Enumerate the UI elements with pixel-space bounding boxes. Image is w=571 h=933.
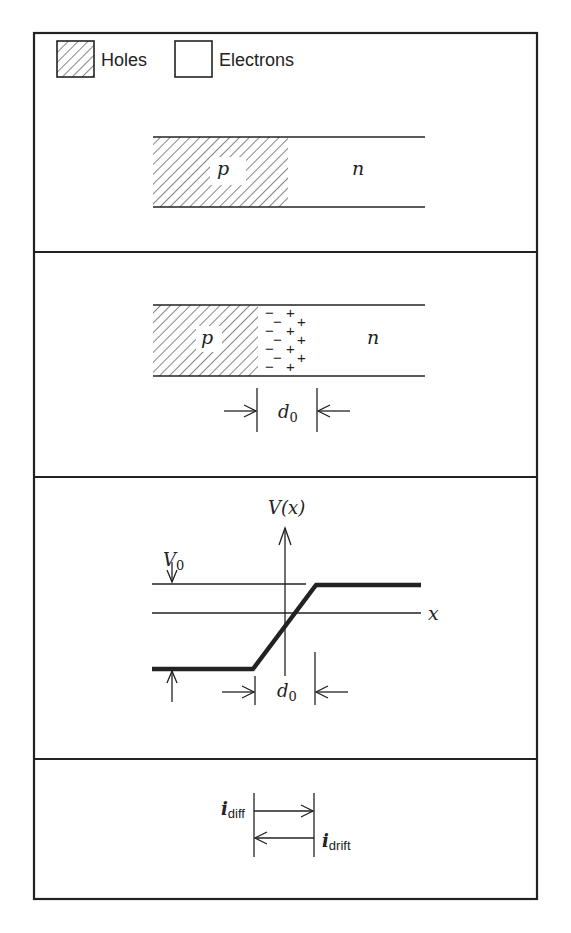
potential-label: V0 [163,549,184,573]
positive-charge: + [297,331,306,348]
panel2-junction: p n − − − − − − − + + + + + + + [153,304,425,432]
depletion-width-dimension: d0 [224,388,350,432]
negative-charge: − [273,331,282,348]
drift-current-arrow [255,832,314,844]
depletion-width-label: d0 [278,401,298,425]
space-charge-region: − − − − − − − + + + + + + + [265,304,306,375]
negative-charge: − [273,349,282,366]
p-region-label: p [217,157,229,179]
negative-charge: − [273,313,282,330]
negative-charge: − [265,358,274,375]
positive-charge: + [297,313,306,330]
arrow-up-icon [167,671,177,702]
y-axis-label: V(x) [268,497,305,518]
x-axis-label: x [428,602,439,624]
legend-holes-label: Holes [101,50,147,70]
panel3-potential-plot: V(x) x V0 [152,497,439,705]
n-region-label: n [352,157,364,179]
diffusion-current-label: idiff [221,798,245,821]
width-label: d0 [277,680,297,704]
potential-curve [152,585,421,669]
legend-electrons: Electrons [175,41,294,77]
arrow-right-icon [222,686,254,698]
positive-charge: + [297,349,306,366]
positive-charge: + [286,304,295,321]
arrow-left-icon [318,405,350,417]
p-region-label: p [201,326,213,348]
y-axis [279,528,291,676]
diffusion-current-arrow [254,805,313,817]
positive-charge: + [286,358,295,375]
panel1-junction: p n [153,137,425,207]
n-region-label: n [367,326,379,348]
positive-charge: + [286,322,295,339]
positive-charge: + [286,340,295,357]
panel4-currents: idiff idrift [221,793,351,857]
drift-current-label: idrift [322,830,351,853]
legend-electrons-label: Electrons [219,50,294,70]
empty-swatch-icon [175,41,212,77]
arrow-right-icon [224,405,256,417]
legend: Holes Electrons [57,41,294,77]
hatched-swatch-icon [57,41,94,77]
arrow-left-icon [316,686,348,698]
legend-holes: Holes [57,41,147,77]
